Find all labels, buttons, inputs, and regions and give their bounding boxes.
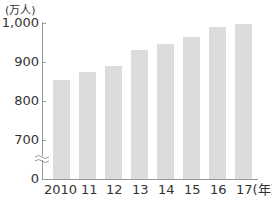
bar-14	[157, 44, 174, 179]
bar-16	[209, 27, 226, 179]
ytick-label-800: 800	[14, 94, 39, 108]
xtick-label: 2010	[44, 183, 77, 197]
bar-2010	[53, 80, 70, 179]
xtick-label: 16	[210, 183, 227, 197]
ytick-900	[42, 62, 46, 63]
xtick-label: 12	[106, 183, 123, 197]
ytick-700	[42, 140, 46, 141]
ytick-label-700: 700	[14, 133, 39, 147]
bar-11	[79, 72, 96, 179]
xtick-label: 15	[184, 183, 201, 197]
xtick-label: 14	[158, 183, 175, 197]
bar-12	[105, 66, 122, 179]
x-axis	[42, 179, 258, 180]
axis-break-icon	[34, 156, 50, 160]
bar-13	[131, 50, 148, 179]
ytick-1000	[42, 23, 46, 24]
xtick-label: 13	[132, 183, 149, 197]
bar-17(年)	[235, 24, 252, 179]
xtick-label: 17(年)	[236, 183, 272, 197]
ytick-label-900: 900	[14, 55, 39, 69]
bar-15	[183, 37, 200, 179]
ytick-800	[42, 101, 46, 102]
ytick-label-0: 0	[31, 172, 39, 186]
ytick-label-1000: 1,000	[2, 16, 39, 30]
xtick-label: 11	[81, 183, 98, 197]
